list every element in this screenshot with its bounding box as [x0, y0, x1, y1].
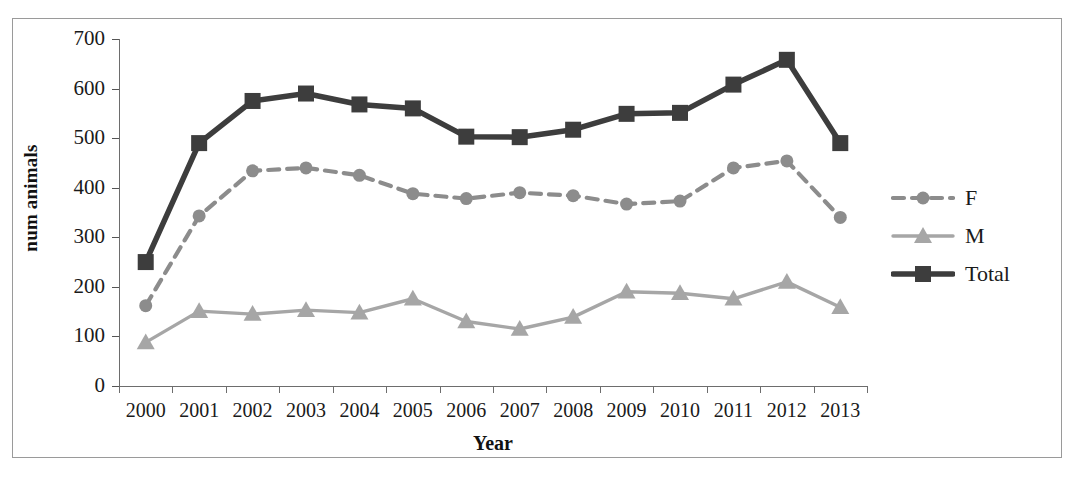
x-tick-label: 2002	[226, 400, 279, 420]
legend-swatch-icon	[891, 263, 955, 285]
data-point-marker	[139, 299, 152, 312]
x-tick-mark	[119, 386, 120, 393]
data-point-marker	[351, 96, 367, 112]
x-tick-label: 2000	[119, 400, 172, 420]
data-point-marker	[138, 254, 154, 270]
legend-label: F	[965, 185, 977, 211]
x-tick-label: 2006	[440, 400, 493, 420]
legend-item-m[interactable]: M	[891, 217, 1010, 255]
data-point-marker	[512, 129, 528, 145]
data-point-marker	[406, 187, 419, 200]
data-point-marker	[778, 273, 796, 289]
data-point-marker	[405, 100, 421, 116]
data-point-marker	[620, 198, 633, 211]
data-point-marker	[567, 189, 580, 202]
data-point-marker	[300, 161, 313, 174]
data-point-marker	[672, 105, 688, 121]
data-point-marker	[832, 135, 848, 151]
data-point-marker	[191, 135, 207, 151]
x-tick-label: 2011	[707, 400, 760, 420]
x-tick-mark	[333, 386, 334, 393]
series-f	[139, 154, 847, 312]
x-axis-title: Year	[119, 432, 867, 455]
legend-item-total[interactable]: Total	[891, 255, 1010, 293]
series-total	[138, 52, 849, 270]
x-tick-mark	[707, 386, 708, 393]
legend-item-f[interactable]: F	[891, 179, 1010, 217]
x-tick-mark	[386, 386, 387, 393]
data-point-marker	[460, 192, 473, 205]
chart-plot-area: num animals 0100200300400500600700 20002…	[13, 19, 1061, 457]
series-m	[137, 273, 850, 349]
x-tick-mark	[279, 386, 280, 393]
x-tick-label: 2010	[653, 400, 706, 420]
figure-frame: num animals 0100200300400500600700 20002…	[12, 18, 1062, 458]
data-point-marker	[725, 77, 741, 93]
x-tick-label: 2007	[493, 400, 546, 420]
x-tick-mark	[546, 386, 547, 393]
x-tick-label: 2003	[279, 400, 332, 420]
x-tick-label: 2005	[386, 400, 439, 420]
chart-legend: FMTotal	[891, 179, 1010, 293]
x-tick-mark	[600, 386, 601, 393]
data-point-marker	[404, 290, 422, 306]
data-point-marker	[246, 164, 259, 177]
x-tick-label: 2009	[600, 400, 653, 420]
data-point-marker	[513, 186, 526, 199]
x-tick-label: 2013	[814, 400, 867, 420]
legend-label: M	[965, 223, 985, 249]
x-tick-mark	[172, 386, 173, 393]
legend-swatch-icon	[891, 225, 955, 247]
data-point-marker	[245, 93, 261, 109]
data-point-marker	[779, 52, 795, 68]
x-tick-label: 2004	[333, 400, 386, 420]
data-point-marker	[298, 86, 314, 102]
x-tick-mark	[653, 386, 654, 393]
data-point-marker	[137, 333, 155, 349]
data-point-marker	[727, 161, 740, 174]
data-point-marker	[674, 195, 687, 208]
data-point-marker	[834, 211, 847, 224]
series-line	[146, 161, 841, 306]
data-point-marker	[193, 209, 206, 222]
x-tick-label: 2001	[172, 400, 225, 420]
x-tick-label: 2008	[546, 400, 599, 420]
x-tick-mark	[867, 386, 868, 393]
data-point-marker	[780, 154, 793, 167]
x-tick-mark	[493, 386, 494, 393]
x-tick-mark	[814, 386, 815, 393]
x-tick-mark	[440, 386, 441, 393]
data-point-marker	[458, 129, 474, 145]
legend-label: Total	[965, 261, 1010, 287]
data-point-marker	[353, 169, 366, 182]
x-tick-label: 2012	[760, 400, 813, 420]
x-tick-mark	[226, 386, 227, 393]
legend-swatch-icon	[891, 187, 955, 209]
x-tick-mark	[760, 386, 761, 393]
data-point-marker	[565, 122, 581, 138]
data-point-marker	[619, 106, 635, 122]
